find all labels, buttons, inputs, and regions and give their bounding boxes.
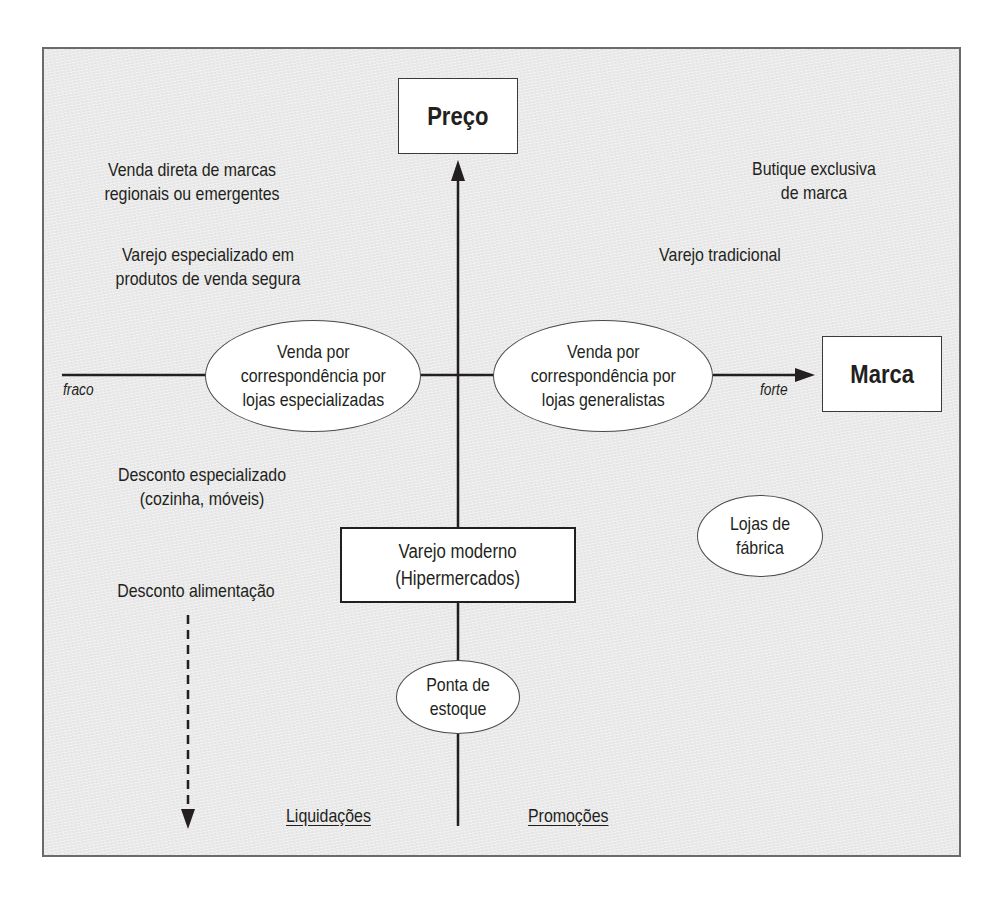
- label-specialized-discount: Desconto especializado (cozinha, móveis): [101, 463, 304, 511]
- label-food-discount: Desconto alimentação: [101, 579, 290, 603]
- brand-axis-box: Marca: [822, 336, 942, 412]
- ellipse-mail-order-generalist: Venda por correspondência por lojas gene…: [493, 320, 713, 432]
- label-clearance: Liquidações: [286, 804, 371, 828]
- label-traditional-retail: Varejo tradicional: [634, 243, 806, 267]
- brand-axis-label: Marca: [850, 360, 914, 389]
- label-specialized-retail-safe-products: Varejo especializado em produtos de vend…: [91, 243, 325, 291]
- weak-label: fraco: [63, 381, 94, 399]
- strong-label: forte: [760, 381, 788, 399]
- label-direct-sale-regional-brands: Venda direta de marcas regionais ou emer…: [80, 158, 304, 206]
- ellipse-mail-order-specialized: Venda por correspondência por lojas espe…: [205, 320, 421, 432]
- label-exclusive-brand-boutique: Butique exclusiva de marca: [723, 157, 905, 205]
- ellipse-factory-stores: Lojas de fábrica: [697, 495, 823, 577]
- label-promotions: Promoções: [528, 804, 608, 828]
- price-axis-box: Preço: [398, 78, 518, 154]
- ellipse-stock-outlet: Ponta de estoque: [396, 660, 520, 734]
- box-modern-retail-hypermarkets: Varejo moderno (Hipermercados): [340, 527, 576, 603]
- price-axis-label: Preço: [427, 102, 488, 131]
